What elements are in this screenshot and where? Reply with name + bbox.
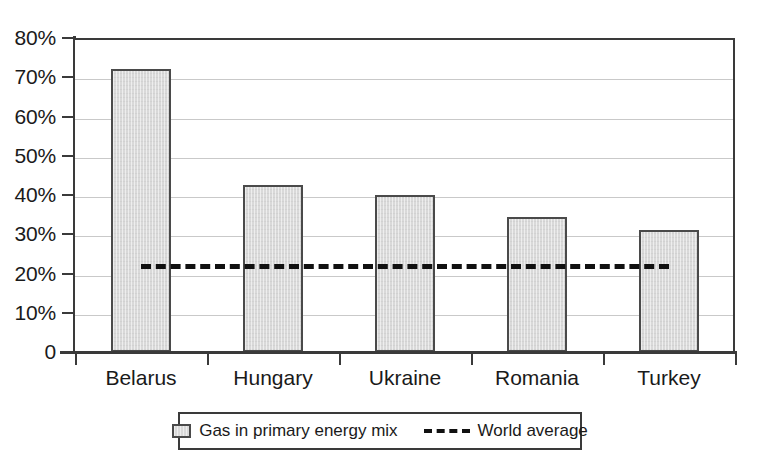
x-axis-label-romania: Romania	[471, 366, 603, 390]
y-axis-tick-label: 50%	[0, 145, 56, 166]
x-axis-tick	[75, 352, 77, 365]
gray-square-swatch-icon	[172, 424, 191, 438]
y-axis-tick-label: 60%	[0, 106, 56, 127]
y-axis-tick	[62, 194, 74, 196]
y-axis-tick	[62, 273, 74, 275]
legend-item-world-average: World average	[424, 422, 588, 440]
x-axis-label-belarus: Belarus	[75, 366, 207, 390]
black-dashed-line-icon	[424, 429, 470, 433]
legend-label-bar-series: Gas in primary energy mix	[199, 422, 397, 440]
bar-ukraine	[375, 195, 435, 352]
x-axis-label-hungary: Hungary	[207, 366, 339, 390]
legend-item-bar-series: Gas in primary energy mix	[172, 422, 397, 440]
chart-legend: Gas in primary energy mix World average	[178, 412, 582, 450]
y-axis-tick-label: 0	[0, 341, 56, 362]
bar-romania	[507, 217, 567, 352]
x-axis-tick	[471, 352, 473, 365]
gridline	[75, 79, 733, 80]
y-axis-tick	[62, 233, 74, 235]
gridline	[75, 158, 733, 159]
y-axis-tick	[62, 37, 74, 39]
legend-label-world-average: World average	[478, 422, 588, 440]
gridline	[75, 119, 733, 120]
y-axis-tick	[62, 312, 74, 314]
y-axis-tick-label: 80%	[0, 27, 56, 48]
x-axis-tick	[339, 352, 341, 365]
x-axis-line	[60, 351, 737, 354]
y-axis-tick	[62, 155, 74, 157]
y-axis-tick	[62, 116, 74, 118]
x-axis-label-turkey: Turkey	[603, 366, 735, 390]
y-axis-tick-label: 70%	[0, 66, 56, 87]
bar-belarus	[111, 69, 171, 352]
plot-area	[75, 38, 735, 352]
y-axis-tick-label: 40%	[0, 184, 56, 205]
y-axis-tick-label: 20%	[0, 263, 56, 284]
bar-turkey	[639, 230, 699, 352]
y-axis-tick-label: 10%	[0, 302, 56, 323]
x-axis-tick	[735, 352, 737, 365]
y-axis-tick-label: 30%	[0, 223, 56, 244]
world-average-line	[141, 264, 669, 269]
y-axis-tick	[62, 76, 74, 78]
x-axis-tick	[603, 352, 605, 365]
x-axis-label-ukraine: Ukraine	[339, 366, 471, 390]
x-axis-tick	[207, 352, 209, 365]
bar-chart: 010%20%30%40%50%60%70%80% BelarusHungary…	[0, 0, 760, 476]
